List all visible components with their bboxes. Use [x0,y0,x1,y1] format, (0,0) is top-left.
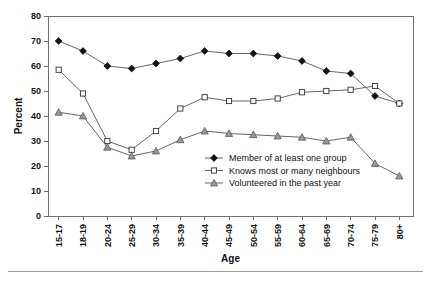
data-point-diamond [177,55,184,62]
data-point-diamond [55,38,62,45]
x-tick-label: 70-74 [346,224,356,247]
data-point-square [153,128,158,133]
x-tick-label: 20-24 [103,224,113,247]
y-axis-ticks: 01020304050607080 [31,11,48,221]
series-1 [55,38,402,107]
x-tick-label: 80+ [395,224,405,239]
data-point-square [275,96,280,101]
x-tick-label: 25-29 [127,224,137,247]
x-tick-label: 30-34 [151,224,161,247]
data-point-triangle [201,127,208,134]
y-tick-label: 20 [31,161,41,171]
x-tick-label: 65-69 [322,224,332,247]
legend-label: Volunteered in the past year [229,178,341,188]
chart-legend: Member of at least one groupKnows most o… [205,153,361,188]
x-tick-label: 40-44 [200,224,210,247]
data-point-diamond [201,48,208,55]
y-tick-label: 0 [36,211,41,221]
data-point-square [372,83,377,88]
y-tick-label: 50 [31,86,41,96]
data-point-square [251,98,256,103]
y-tick-label: 70 [31,36,41,46]
percent-by-age-line-chart: 01020304050607080 15-1718-1920-2425-2930… [0,0,431,282]
data-point-square [299,90,304,95]
data-point-triangle [347,134,354,141]
x-tick-label: 55-59 [273,224,283,247]
legend-label: Member of at least one group [229,153,347,163]
data-point-diamond [80,48,87,55]
x-tick-label: 35-39 [176,224,186,247]
data-point-diamond [274,53,281,60]
y-tick-label: 10 [31,186,41,196]
y-axis-title: Percent [13,97,24,134]
data-point-diamond [104,63,111,70]
data-point-diamond [128,65,135,72]
x-tick-label: 15-17 [54,224,64,247]
data-point-square [80,91,85,96]
legend-label: Knows most or many neighbours [229,166,361,176]
y-tick-label: 80 [31,11,41,21]
data-point-square [226,98,231,103]
data-point-diamond [323,68,330,75]
data-point-square [202,95,207,100]
y-tick-label: 60 [31,61,41,71]
data-point-square [211,168,216,173]
data-point-triangle [396,172,403,179]
data-point-square [324,88,329,93]
data-point-diamond [226,50,233,57]
y-tick-label: 40 [31,111,41,121]
x-tick-label: 75-79 [370,224,380,247]
x-tick-label: 18-19 [78,224,88,247]
data-point-square [56,67,61,72]
data-point-square [178,106,183,111]
data-point-square [348,87,353,92]
x-tick-label: 45-49 [224,224,234,247]
data-point-triangle [152,147,159,154]
data-point-diamond [250,50,257,57]
x-axis-title: Age [221,253,240,264]
data-point-diamond [211,155,218,162]
x-axis-ticks: 15-1718-1920-2425-2930-3435-3940-4445-49… [54,216,405,247]
x-tick-label: 50-54 [249,224,259,247]
footer-divider [8,271,423,272]
data-point-square [397,101,402,106]
data-point-triangle [177,136,184,143]
data-point-diamond [299,58,306,65]
chart-container: 01020304050607080 15-1718-1920-2425-2930… [0,0,431,282]
data-point-triangle [55,109,62,116]
x-tick-label: 60-64 [297,224,307,247]
data-point-diamond [153,60,160,67]
y-tick-label: 30 [31,136,41,146]
